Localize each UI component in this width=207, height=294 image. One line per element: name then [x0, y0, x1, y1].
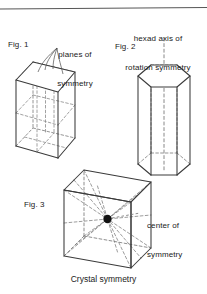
fig3-top-face — [64, 170, 151, 202]
fig1-annotation-line2: symmetry — [44, 79, 106, 89]
fig3-label: Fig. 3 — [24, 200, 45, 210]
fig3-center-of-symmetry-point — [103, 215, 111, 223]
fig2-label: Fig. 2 — [115, 42, 136, 52]
fig1-annotation-line1: planes of — [44, 50, 106, 60]
fig1-annotation: planes of symmetry — [44, 31, 106, 107]
fig2-annotation-line2: rotation symmetry — [112, 63, 204, 73]
figure-caption: Crystal symmetry — [0, 274, 207, 284]
fig2-annotation: hexad axis of rotation symmetry — [112, 15, 204, 91]
fig3-annotation-line1: center of — [147, 221, 205, 231]
crystal-symmetry-figure: Fig. 1 planes of symmetry hexad axis of … — [0, 0, 207, 294]
fig3-cube-icon — [64, 170, 151, 268]
fig3-annotation-line2: symmetry — [147, 250, 205, 260]
fig3-annotation: center of symmetry — [147, 202, 205, 278]
fig3-front-face — [64, 190, 131, 268]
top-rule — [0, 8, 207, 10]
fig1-label: Fig. 1 — [8, 40, 29, 50]
